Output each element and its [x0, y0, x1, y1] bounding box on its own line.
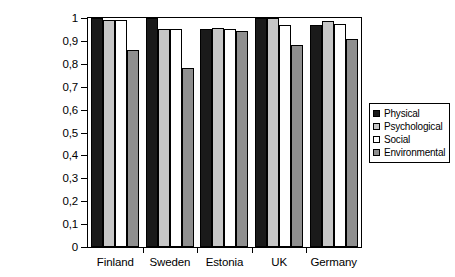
bar-uk-social	[279, 25, 291, 247]
legend-label: Social	[384, 134, 410, 145]
legend-item-social: Social	[373, 133, 445, 146]
bar-sweden-social	[170, 29, 182, 247]
legend-swatch-physical-icon	[373, 110, 380, 117]
x-axis-labels: FinlandSwedenEstoniaUKGermany	[88, 255, 361, 275]
bar-group-sweden	[143, 18, 198, 247]
bar-group-uk	[252, 18, 307, 247]
x-tick-label-estonia: Estonia	[197, 255, 252, 275]
y-tick-label: 0,2	[0, 196, 78, 207]
bar-group-germany	[306, 18, 361, 247]
y-tick-label: 0,7	[0, 81, 78, 92]
bar-germany-physical	[310, 25, 322, 247]
legend: PhysicalPsychologicalSocialEnvironmental	[369, 103, 450, 163]
bar-sweden-physical	[146, 18, 158, 247]
bar-finland-psychological	[103, 20, 115, 247]
y-tick-label: 0,8	[0, 58, 78, 69]
legend-label: Psychological	[384, 121, 443, 132]
legend-item-physical: Physical	[373, 107, 445, 120]
bar-germany-social	[334, 24, 346, 247]
y-tick-label: 0,5	[0, 127, 78, 138]
y-axis: 10,90,80,70,60,50,40,30,20,10	[0, 0, 78, 277]
y-tick-label: 0,4	[0, 150, 78, 161]
bar-estonia-environmental	[236, 31, 248, 247]
y-tick-label: 0,3	[0, 173, 78, 184]
y-tick-label: 1	[0, 13, 78, 24]
legend-label: Physical	[384, 108, 420, 119]
x-tick-mark	[143, 248, 144, 253]
y-tick-label: 0,1	[0, 219, 78, 230]
bar-chart: 10,90,80,70,60,50,40,30,20,10 FinlandSwe…	[0, 0, 455, 277]
bar-estonia-social	[224, 29, 236, 247]
x-tick-mark	[252, 248, 253, 253]
x-tick-label-uk: UK	[252, 255, 307, 275]
bar-group-estonia	[197, 18, 252, 247]
bar-germany-psychological	[322, 21, 334, 247]
bar-uk-environmental	[291, 45, 303, 247]
x-tick-mark	[197, 248, 198, 253]
x-tick-mark	[306, 248, 307, 253]
bar-uk-physical	[255, 18, 267, 247]
legend-swatch-psychological-icon	[373, 123, 380, 130]
bar-uk-psychological	[267, 18, 279, 247]
legend-label: Environmental	[384, 147, 445, 158]
bar-estonia-psychological	[212, 28, 224, 247]
legend-swatch-environmental-icon	[373, 149, 380, 156]
x-tick-label-sweden: Sweden	[143, 255, 198, 275]
bar-sweden-environmental	[182, 68, 194, 247]
y-tick-label: 0	[0, 242, 78, 253]
bar-finland-social	[115, 20, 127, 247]
bar-germany-environmental	[346, 39, 358, 247]
x-tick-label-finland: Finland	[88, 255, 143, 275]
bar-group-finland	[88, 18, 143, 247]
legend-item-environmental: Environmental	[373, 146, 445, 159]
bar-finland-physical	[91, 18, 103, 247]
y-tick-label: 0,9	[0, 35, 78, 46]
bar-finland-environmental	[127, 50, 139, 247]
legend-item-psychological: Psychological	[373, 120, 445, 133]
bar-groups	[88, 18, 361, 247]
bar-sweden-psychological	[158, 29, 170, 247]
legend-swatch-social-icon	[373, 136, 380, 143]
x-tick-label-germany: Germany	[306, 255, 361, 275]
bar-estonia-physical	[200, 29, 212, 247]
y-tick-label: 0,6	[0, 104, 78, 115]
